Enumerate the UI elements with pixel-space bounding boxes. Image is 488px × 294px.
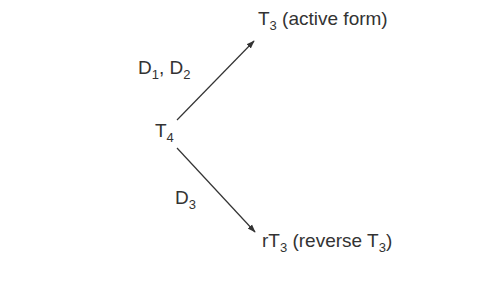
arrows-layer <box>0 0 488 294</box>
t3-description: (active form) <box>277 8 388 29</box>
upper-product-label: T3 (active form) <box>258 9 388 28</box>
d3-base: D <box>175 187 189 208</box>
t3-base: T <box>258 8 270 29</box>
rt3-description: (reverse T <box>287 230 379 251</box>
lower-enzyme-label: D3 <box>175 188 196 207</box>
t4-subscript: 4 <box>167 130 174 145</box>
reverse-t3-subscript: 3 <box>379 240 386 255</box>
lower-product-label: rT3 (reverse T3) <box>262 231 392 250</box>
source-label: T4 <box>155 121 174 140</box>
t3-subscript: 3 <box>270 18 277 33</box>
d1-subscript: 1 <box>152 67 159 82</box>
closing-paren: ) <box>386 230 392 251</box>
rt3-base: rT <box>262 230 280 251</box>
d2-base: D <box>170 57 184 78</box>
d3-subscript: 3 <box>189 197 196 212</box>
d2-subscript: 2 <box>183 67 190 82</box>
upper-enzymes-label: D1, D2 <box>138 58 191 77</box>
d1-base: D <box>138 57 152 78</box>
t4-base: T <box>155 120 167 141</box>
enzyme-separator: , <box>159 57 170 78</box>
